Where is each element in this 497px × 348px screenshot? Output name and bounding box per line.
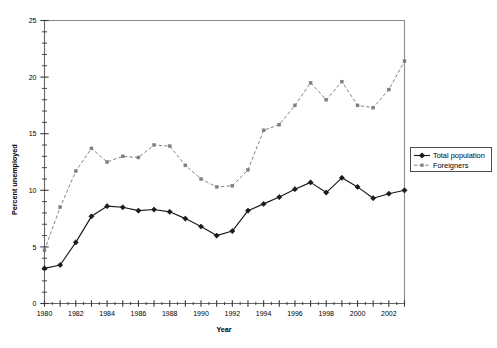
x-tick-label: 1984 [99,310,115,317]
y-tick-label: 15 [29,130,37,137]
y-tick-label: 5 [33,244,37,251]
legend-label-foreigners: Foreigners [433,161,469,170]
data-point-marker [43,249,46,252]
data-point-marker [386,191,391,196]
data-point-marker [151,207,156,212]
data-point-marker [59,206,62,209]
data-point-marker [121,155,124,158]
data-point-marker [42,266,47,271]
y-tick-label: 25 [29,17,37,24]
data-point-marker [136,208,141,213]
data-point-marker [137,156,140,159]
x-tick-label: 1996 [287,310,303,317]
line-chart: 0510152025 19801982198419861988199019921… [0,0,497,348]
data-point-marker [184,164,187,167]
series-line [45,178,405,269]
plot-border [45,21,405,304]
x-tick-label: 1994 [256,310,272,317]
series-total-population [42,175,407,271]
data-point-marker [402,188,407,193]
x-tick-label: 1998 [318,310,334,317]
data-point-marker [167,209,172,214]
series-foreigners [43,60,406,252]
x-tick-label: 1990 [193,310,209,317]
data-point-marker [153,144,156,147]
x-tick-label: 1992 [225,310,241,317]
y-tick-label: 10 [29,187,37,194]
data-point-marker [90,147,93,150]
x-tick-label: 1986 [131,310,147,317]
data-point-marker [74,170,77,173]
y-tick-label: 20 [29,74,37,81]
y-axis-title: Percent unemployed [10,144,19,215]
data-point-marker [215,185,218,188]
data-point-marker [340,80,343,83]
chart-legend: Total population Foreigners [411,148,492,172]
data-point-marker [106,161,109,164]
data-point-marker [120,205,125,210]
x-tick-label: 1988 [162,310,178,317]
data-point-marker [309,81,312,84]
data-point-marker [387,88,390,91]
data-point-marker [200,177,203,180]
x-tick-label: 1982 [68,310,84,317]
data-point-marker [262,129,265,132]
data-point-marker [277,194,282,199]
x-tick-label: 2000 [350,310,366,317]
data-series-layer [42,60,407,271]
data-point-marker [168,145,171,148]
x-tick-label: 1980 [37,310,53,317]
data-point-marker [261,201,266,206]
y-axis-tick-labels: 0510152025 [29,17,37,307]
data-point-marker [293,104,296,107]
chart-container: 0510152025 19801982198419861988199019921… [0,0,497,348]
data-point-marker [214,233,219,238]
data-point-marker [198,224,203,229]
square-icon [420,164,423,167]
axis-lines [45,21,405,304]
x-axis-title: Year [216,325,231,334]
data-point-marker [356,104,359,107]
data-point-marker [403,60,406,63]
x-tick-label: 2002 [381,310,397,317]
y-tick-label: 0 [33,300,37,307]
data-point-marker [246,168,249,171]
data-point-marker [231,184,234,187]
x-axis-tick-labels: 1980198219841986198819901992199419961998… [37,310,397,317]
data-point-marker [372,106,375,109]
data-point-marker [325,98,328,101]
series-line [45,61,405,250]
plot-frame [45,21,405,304]
data-point-marker [292,187,297,192]
data-point-marker [183,216,188,221]
legend-label-total-population: Total population [433,151,485,160]
data-point-marker [278,123,281,126]
